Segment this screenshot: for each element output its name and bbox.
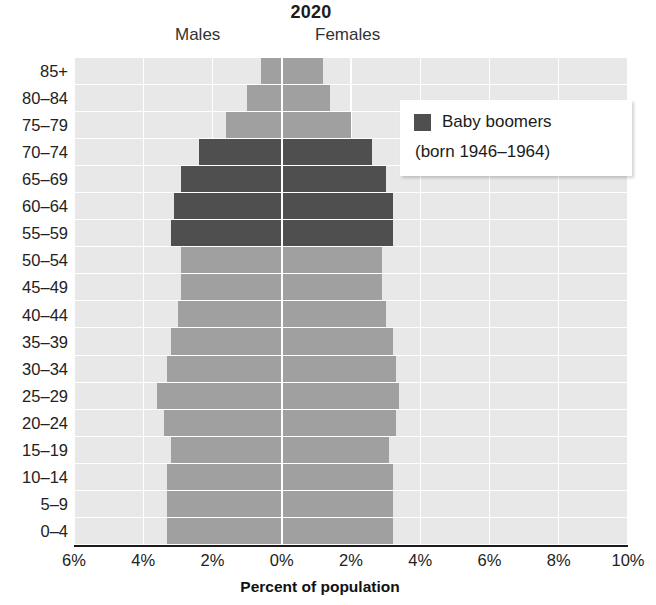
x-axis-tick-label: 2% <box>339 551 363 570</box>
x-axis-tick-label: 4% <box>131 551 155 570</box>
bar-female <box>282 85 330 111</box>
legend-box: Baby boomers (born 1946–1964) <box>400 100 632 176</box>
bar-female <box>282 437 389 463</box>
bar-male <box>178 301 282 327</box>
bar-male <box>181 274 281 300</box>
y-axis-label: 80–84 <box>4 85 68 112</box>
x-axis-tick-label: 4% <box>408 551 432 570</box>
y-axis-label: 30–34 <box>4 356 68 383</box>
y-axis-label: 5–9 <box>4 491 68 518</box>
bar-male <box>164 410 282 436</box>
bar-male <box>171 220 282 246</box>
zero-axis-line <box>281 58 283 545</box>
bar-male <box>247 85 282 111</box>
bar-row <box>74 437 628 464</box>
bar-male <box>181 166 281 192</box>
x-axis-tick-label: 2% <box>201 551 225 570</box>
bar-row <box>74 410 628 437</box>
y-axis-label: 40–44 <box>4 302 68 329</box>
bar-female <box>282 193 393 219</box>
y-axis-label: 55–59 <box>4 220 68 247</box>
x-axis-tick-label: 0% <box>270 551 294 570</box>
x-axis-line <box>74 545 628 547</box>
population-pyramid-chart: 2020 Males Females 85+80–8475–7970–7465–… <box>0 0 656 605</box>
legend-label: Baby boomers <box>442 112 552 132</box>
bar-female <box>282 220 393 246</box>
y-axis-label: 45–49 <box>4 274 68 301</box>
bar-male <box>261 58 282 84</box>
x-axis-title: Percent of population <box>0 578 656 596</box>
y-axis-label: 65–69 <box>4 166 68 193</box>
bar-male <box>167 356 281 382</box>
bar-male <box>171 437 282 463</box>
legend-entry-baby-boomers: Baby boomers <box>414 112 552 132</box>
bar-male <box>199 139 282 165</box>
bar-row <box>74 328 628 355</box>
bar-row <box>74 518 628 545</box>
x-axis-tick-labels: 6%4%2%0%2%4%6%8%10% <box>0 551 656 577</box>
x-axis-tick-label: 10% <box>611 551 644 570</box>
bar-male <box>174 193 281 219</box>
x-axis-tick-label: 8% <box>547 551 571 570</box>
bar-row <box>74 301 628 328</box>
bar-female <box>282 356 396 382</box>
y-axis-label: 0–4 <box>4 518 68 545</box>
x-axis-tick-label: 6% <box>478 551 502 570</box>
bar-female <box>282 58 324 84</box>
x-axis-title-text: Percent of population <box>240 578 399 596</box>
bar-male <box>157 383 282 409</box>
bar-female <box>282 328 393 354</box>
y-axis-label: 15–19 <box>4 437 68 464</box>
y-axis-label: 70–74 <box>4 139 68 166</box>
males-side-label: Males <box>175 25 220 45</box>
bar-row <box>74 220 628 247</box>
bar-male <box>167 464 281 490</box>
y-axis-label: 85+ <box>4 58 68 85</box>
bar-male <box>226 112 281 138</box>
chart-title-text: 2020 <box>290 2 331 23</box>
y-axis-label: 20–24 <box>4 410 68 437</box>
bar-female <box>282 464 393 490</box>
bar-female <box>282 166 386 192</box>
y-axis-label: 10–14 <box>4 464 68 491</box>
bar-row <box>74 247 628 274</box>
bar-male <box>171 328 282 354</box>
bar-row <box>74 491 628 518</box>
y-axis-label: 35–39 <box>4 329 68 356</box>
chart-title: 2020 <box>0 2 656 23</box>
bar-female <box>282 410 396 436</box>
bar-row <box>74 464 628 491</box>
x-axis-tick-label: 6% <box>62 551 86 570</box>
bar-row <box>74 383 628 410</box>
bar-female <box>282 383 400 409</box>
y-axis-label: 60–64 <box>4 193 68 220</box>
bar-female <box>282 274 382 300</box>
bar-row <box>74 274 628 301</box>
legend-sublabel: (born 1946–1964) <box>415 142 550 162</box>
y-axis-age-labels: 85+80–8475–7970–7465–6960–6455–5950–5445… <box>0 58 68 545</box>
bar-female <box>282 491 393 517</box>
bar-row <box>74 58 628 85</box>
bar-female <box>282 247 382 273</box>
bar-row <box>74 193 628 220</box>
bar-male <box>167 518 281 544</box>
bar-male <box>181 247 281 273</box>
bar-female <box>282 301 386 327</box>
y-axis-label: 25–29 <box>4 383 68 410</box>
bar-row <box>74 356 628 383</box>
bar-female <box>282 112 351 138</box>
bar-male <box>167 491 281 517</box>
bar-female <box>282 518 393 544</box>
bar-female <box>282 139 372 165</box>
y-axis-label: 75–79 <box>4 112 68 139</box>
legend-swatch-icon <box>414 114 431 131</box>
y-axis-label: 50–54 <box>4 247 68 274</box>
females-side-label: Females <box>315 25 380 45</box>
